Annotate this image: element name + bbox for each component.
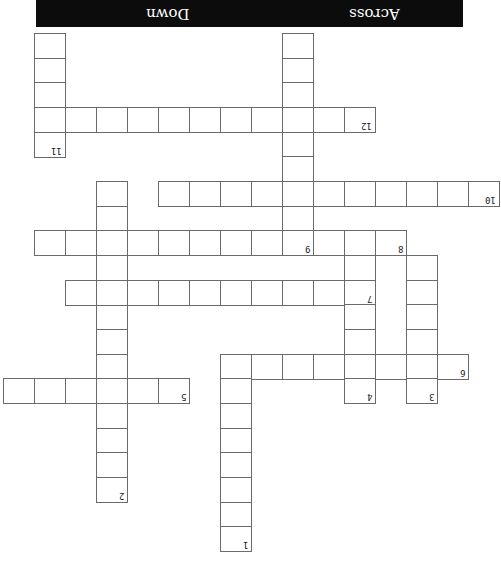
crossword-cell[interactable]: 2 bbox=[96, 477, 128, 503]
crossword-cell[interactable] bbox=[96, 428, 128, 454]
crossword-cell[interactable] bbox=[406, 329, 438, 355]
crossword-cell[interactable] bbox=[406, 181, 438, 207]
clue-number: 4 bbox=[367, 392, 372, 401]
crossword-cell[interactable] bbox=[158, 280, 190, 306]
crossword-cell[interactable] bbox=[282, 58, 314, 84]
crossword-cell[interactable] bbox=[406, 255, 438, 281]
crossword-cell[interactable] bbox=[34, 230, 66, 256]
crossword-cell[interactable] bbox=[406, 354, 438, 380]
crossword-cell[interactable] bbox=[65, 378, 97, 404]
crossword-cell[interactable] bbox=[189, 181, 221, 207]
crossword-cell[interactable] bbox=[282, 156, 314, 182]
clue-number: 2 bbox=[119, 491, 124, 500]
crossword-cell[interactable] bbox=[96, 329, 128, 355]
crossword-cell[interactable] bbox=[220, 428, 252, 454]
crossword-cell[interactable] bbox=[313, 107, 345, 133]
crossword-cell[interactable] bbox=[344, 329, 376, 355]
crossword-cell[interactable] bbox=[220, 354, 252, 380]
crossword-cell[interactable] bbox=[282, 132, 314, 158]
crossword-grid: 111210298743651 bbox=[0, 0, 501, 565]
crossword-cell[interactable]: 7 bbox=[344, 280, 376, 306]
crossword-cell[interactable] bbox=[220, 181, 252, 207]
crossword-cell[interactable] bbox=[251, 354, 283, 380]
crossword-cell[interactable] bbox=[158, 181, 190, 207]
crossword-cell[interactable] bbox=[251, 230, 283, 256]
crossword-cell[interactable]: 12 bbox=[344, 107, 376, 133]
crossword-cell[interactable] bbox=[344, 304, 376, 330]
crossword-cell[interactable] bbox=[282, 181, 314, 207]
crossword-cell[interactable] bbox=[65, 280, 97, 306]
crossword-cell[interactable] bbox=[96, 378, 128, 404]
crossword-cell[interactable]: 3 bbox=[406, 378, 438, 404]
crossword-cell[interactable] bbox=[34, 33, 66, 59]
crossword-cell[interactable] bbox=[282, 82, 314, 108]
crossword-cell[interactable] bbox=[96, 255, 128, 281]
crossword-cell[interactable] bbox=[406, 304, 438, 330]
clue-number: 3 bbox=[429, 392, 434, 401]
crossword-cell[interactable] bbox=[220, 502, 252, 528]
crossword-cell[interactable] bbox=[220, 477, 252, 503]
crossword-cell[interactable] bbox=[220, 107, 252, 133]
crossword-cell[interactable] bbox=[251, 280, 283, 306]
crossword-cell[interactable] bbox=[344, 181, 376, 207]
crossword-cell[interactable] bbox=[251, 107, 283, 133]
crossword-cell[interactable] bbox=[313, 280, 345, 306]
crossword-cell[interactable] bbox=[189, 107, 221, 133]
crossword-cell[interactable] bbox=[96, 280, 128, 306]
crossword-cell[interactable] bbox=[344, 255, 376, 281]
crossword-cell[interactable] bbox=[189, 230, 221, 256]
crossword-cell[interactable] bbox=[34, 378, 66, 404]
crossword-cell[interactable]: 5 bbox=[158, 378, 190, 404]
clue-number: 5 bbox=[181, 392, 186, 401]
crossword-cell[interactable] bbox=[158, 230, 190, 256]
crossword-cell[interactable] bbox=[3, 378, 35, 404]
crossword-cell[interactable] bbox=[375, 181, 407, 207]
crossword-cell[interactable] bbox=[220, 403, 252, 429]
crossword-cell[interactable] bbox=[313, 181, 345, 207]
crossword-cell[interactable]: 4 bbox=[344, 378, 376, 404]
crossword-cell[interactable] bbox=[127, 230, 159, 256]
crossword-cell[interactable]: 11 bbox=[34, 132, 66, 158]
crossword-cell[interactable] bbox=[437, 181, 469, 207]
crossword-cell[interactable]: 9 bbox=[282, 230, 314, 256]
crossword-cell[interactable] bbox=[96, 354, 128, 380]
crossword-cell[interactable] bbox=[313, 354, 345, 380]
crossword-cell[interactable] bbox=[96, 304, 128, 330]
crossword-cell[interactable] bbox=[220, 452, 252, 478]
crossword-cell[interactable] bbox=[65, 230, 97, 256]
crossword-cell[interactable] bbox=[251, 181, 283, 207]
crossword-cell[interactable] bbox=[282, 280, 314, 306]
crossword-cell[interactable] bbox=[282, 33, 314, 59]
crossword-cell[interactable] bbox=[96, 230, 128, 256]
crossword-cell[interactable]: 8 bbox=[375, 230, 407, 256]
crossword-cell[interactable] bbox=[282, 205, 314, 231]
crossword-cell[interactable] bbox=[96, 181, 128, 207]
crossword-cell[interactable] bbox=[220, 378, 252, 404]
crossword-cell[interactable] bbox=[96, 452, 128, 478]
crossword-cell[interactable] bbox=[189, 280, 221, 306]
clue-number: 11 bbox=[51, 146, 62, 155]
crossword-cell[interactable]: 10 bbox=[468, 181, 500, 207]
crossword-cell[interactable] bbox=[96, 206, 128, 232]
crossword-cell[interactable] bbox=[282, 354, 314, 380]
crossword-cell[interactable] bbox=[158, 107, 190, 133]
crossword-cell[interactable] bbox=[127, 107, 159, 133]
crossword-cell[interactable] bbox=[375, 354, 407, 380]
crossword-cell[interactable] bbox=[220, 230, 252, 256]
crossword-cell[interactable] bbox=[282, 107, 314, 133]
crossword-cell[interactable] bbox=[127, 280, 159, 306]
crossword-cell[interactable] bbox=[127, 378, 159, 404]
crossword-cell[interactable] bbox=[344, 230, 376, 256]
crossword-cell[interactable] bbox=[406, 280, 438, 306]
crossword-cell[interactable]: 6 bbox=[437, 354, 469, 380]
crossword-cell[interactable] bbox=[34, 107, 66, 133]
crossword-cell[interactable] bbox=[344, 354, 376, 380]
crossword-cell[interactable] bbox=[96, 403, 128, 429]
crossword-cell[interactable] bbox=[34, 82, 66, 108]
crossword-cell[interactable]: 1 bbox=[220, 526, 252, 552]
crossword-cell[interactable] bbox=[96, 107, 128, 133]
crossword-cell[interactable] bbox=[65, 107, 97, 133]
crossword-cell[interactable] bbox=[220, 280, 252, 306]
crossword-cell[interactable] bbox=[313, 230, 345, 256]
crossword-cell[interactable] bbox=[34, 58, 66, 84]
